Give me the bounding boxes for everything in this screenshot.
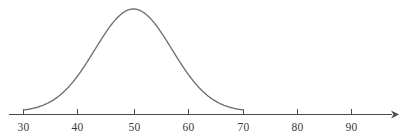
tick-label-90: 90	[346, 121, 358, 133]
plot-canvas: 30 40 50 60 70 80 90	[0, 0, 405, 139]
tick-label-60: 60	[183, 121, 195, 133]
bell-curve-figure: 30 40 50 60 70 80 90	[0, 0, 405, 139]
axis-tick-labels: 30 40 50 60 70 80 90	[18, 121, 358, 133]
tick-label-80: 80	[292, 121, 304, 133]
normal-distribution-curve	[24, 9, 244, 110]
tick-label-50: 50	[129, 121, 141, 133]
tick-label-40: 40	[72, 121, 84, 133]
tick-label-70: 70	[238, 121, 250, 133]
tick-label-30: 30	[18, 121, 30, 133]
axis-tick-marks	[24, 109, 352, 115]
axis-arrow-icon	[391, 111, 399, 119]
